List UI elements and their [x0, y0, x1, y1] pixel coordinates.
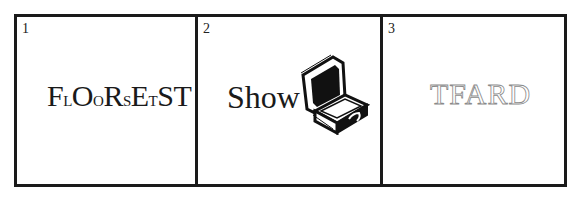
panel-number: 1	[22, 22, 29, 36]
letter: T	[149, 93, 158, 109]
letter: O	[72, 79, 93, 112]
panel-number: 3	[388, 22, 395, 36]
panel-1: 1 FLOORSETST	[17, 17, 198, 184]
rebus-puzzle: 1 FLOORSETST 2 Show 3 TFARD	[14, 14, 567, 187]
show-word-clue: Show	[227, 81, 300, 113]
letter: F	[47, 79, 63, 112]
panel-3: 3 TFARD	[383, 17, 564, 184]
panel-number: 2	[203, 22, 210, 36]
letter: O	[93, 93, 103, 109]
open-briefcase-icon	[293, 53, 373, 135]
letter: L	[63, 93, 72, 109]
letter: E	[131, 79, 149, 112]
outlined-word-clue: TFARD	[430, 79, 531, 109]
letter: R	[103, 79, 123, 112]
letter: S	[157, 79, 173, 112]
panel-2: 2 Show	[198, 17, 383, 184]
letter: S	[123, 93, 131, 109]
letter: T	[173, 79, 191, 112]
mixed-size-letters-clue: FLOORSETST	[47, 81, 191, 111]
